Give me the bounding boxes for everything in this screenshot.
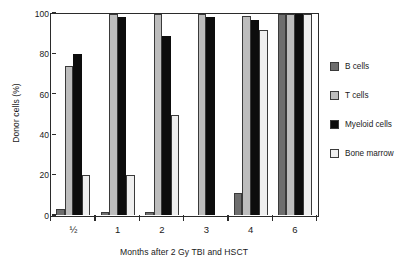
bar [251, 20, 260, 215]
legend-item-label: Bone marrow [345, 149, 394, 158]
legend-swatch [330, 91, 339, 100]
legend-swatch [330, 149, 339, 158]
bar-group [229, 14, 273, 215]
x-axis-label: 4 [229, 224, 273, 235]
bar [109, 14, 118, 215]
bar [259, 30, 268, 215]
x-axis-label: 2 [140, 224, 184, 235]
x-axis-labels: ½12346 [51, 224, 317, 235]
bar [278, 14, 287, 215]
x-axis-tick-mark [316, 215, 317, 221]
bar-group [273, 14, 317, 215]
x-axis-label: 1 [96, 224, 140, 235]
legend-item: B cells [330, 60, 406, 72]
legend-item: Myeloid cells [330, 118, 406, 130]
bar-group [51, 14, 95, 215]
bar [234, 193, 243, 215]
bar [198, 14, 207, 215]
x-axis-tick-mark [272, 215, 273, 221]
bar [171, 115, 180, 216]
x-axis-label: 3 [184, 224, 228, 235]
bar [295, 14, 304, 215]
legend-item-label: B cells [345, 62, 369, 71]
bar-chart: Donor cells (%) 020406080100 ½12346 Mont… [0, 0, 406, 267]
legend-swatch [330, 62, 339, 71]
legend-item: T cells [330, 89, 406, 101]
legend-item: Bone marrow [330, 147, 406, 159]
bar [65, 66, 74, 215]
bar [162, 36, 171, 215]
x-axis-tick-mark [139, 215, 140, 221]
bar-groups [51, 14, 317, 215]
bar [82, 175, 91, 215]
x-axis-label: ½ [51, 224, 95, 235]
bar [126, 175, 135, 215]
legend-item-label: Myeloid cells [345, 120, 392, 129]
x-axis-label: 6 [273, 224, 317, 235]
x-axis-tick-mark [50, 215, 51, 221]
x-axis-tick-mark [227, 215, 228, 221]
bar [118, 17, 127, 215]
bar [303, 14, 312, 215]
legend-item-label: T cells [345, 91, 369, 100]
y-axis-title: Donor cells (%) [11, 53, 21, 173]
bar [242, 16, 251, 215]
bar-group [96, 14, 140, 215]
x-axis-ticks [50, 215, 318, 223]
bar [154, 14, 163, 215]
bar [286, 14, 295, 215]
bar [206, 17, 215, 215]
x-axis-tick-mark [183, 215, 184, 221]
bar [73, 54, 82, 215]
bar-group [184, 14, 228, 215]
chart-legend: B cellsT cellsMyeloid cellsBone marrow [330, 60, 406, 176]
legend-swatch [330, 120, 339, 129]
x-axis-tick-mark [94, 215, 95, 221]
x-axis-title: Months after 2 Gy TBI and HSCT [51, 247, 317, 257]
bar-group [140, 14, 184, 215]
